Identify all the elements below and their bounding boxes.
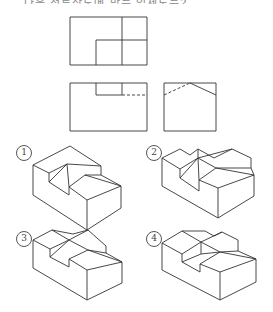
option-1-isometric — [33, 146, 121, 230]
option-1-label[interactable]: 1 — [16, 143, 32, 161]
orthographic-drawing — [0, 0, 273, 312]
option-3-label[interactable]: 3 — [16, 229, 32, 247]
front-view — [70, 83, 147, 131]
side-view — [164, 83, 216, 131]
top-view — [70, 17, 147, 65]
option-2-isometric — [162, 149, 254, 218]
option-4-isometric — [162, 231, 256, 300]
option-2-label[interactable]: 2 — [146, 143, 162, 161]
option-4-label[interactable]: 4 — [146, 229, 162, 247]
option-3-isometric — [33, 230, 122, 300]
